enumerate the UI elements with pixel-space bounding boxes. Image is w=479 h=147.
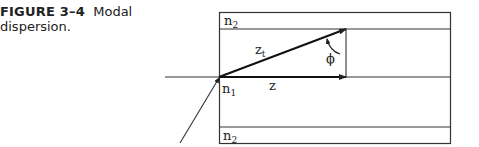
label-phi: ϕ <box>326 51 335 66</box>
label-z: z <box>269 78 276 93</box>
label-zt: zt <box>255 42 266 59</box>
label-n2-bottom: n2 <box>223 128 237 145</box>
label-n2-top: n2 <box>224 13 238 30</box>
incident-ray <box>180 78 219 143</box>
modal-dispersion-diagram: n2 n1 n2 z zt ϕ <box>0 0 479 147</box>
label-n1-core: n1 <box>222 81 236 98</box>
